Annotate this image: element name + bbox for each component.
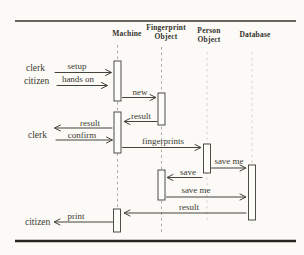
message-label-save-me-1: save me (208, 156, 250, 166)
message-label-result-3: result (168, 202, 210, 212)
column-header-database: Database (232, 30, 278, 39)
message-label-setup: setup (57, 61, 97, 71)
column-header-fingerprint-object: Fingerprint Object (142, 23, 190, 41)
actor-citizen-top: citizen (24, 76, 49, 86)
arrow-save-me-fingerprint-to-database (167, 194, 247, 200)
message-label-hands-on: hands on (56, 74, 100, 84)
activation-fingerprint-2 (158, 170, 165, 200)
message-label-fingerprints: fingerprints (136, 136, 190, 146)
message-label-save: save (167, 167, 209, 177)
actor-clerk-middle: clerk (28, 130, 47, 140)
sequence-diagram-figure: Machine Fingerprint Object Person Object… (0, 0, 304, 255)
message-label-new: new (120, 87, 160, 97)
message-label-result-1: result (120, 111, 162, 121)
actor-citizen-bottom: citizen (25, 217, 50, 227)
message-label-result-2: result (70, 118, 110, 128)
activation-database-1 (249, 165, 256, 220)
message-label-confirm: confirm (61, 130, 103, 140)
column-header-person-object: Person Object (188, 26, 230, 44)
message-label-save-me-2: save me (174, 185, 218, 195)
activation-machine-3 (114, 209, 121, 232)
actor-clerk-top: clerk (26, 63, 45, 73)
message-label-print: print (55, 211, 97, 221)
